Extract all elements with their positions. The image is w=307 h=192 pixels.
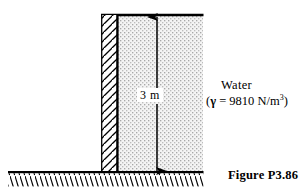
retaining-wall <box>102 15 118 172</box>
specific-weight-label: (γ = 9810 N/m3) <box>206 95 288 108</box>
water-label: Water <box>221 79 252 92</box>
dimension-label: 3 m <box>137 88 163 102</box>
gamma-value: = 9810 N/m <box>216 94 280 108</box>
figure-container: 3 m Water (γ = 9810 N/m3) Figure P3.86 <box>0 0 307 192</box>
gamma-paren-close: ) <box>284 94 288 108</box>
ground-hatching <box>8 173 204 186</box>
figure-caption: Figure P3.86 <box>228 169 298 182</box>
